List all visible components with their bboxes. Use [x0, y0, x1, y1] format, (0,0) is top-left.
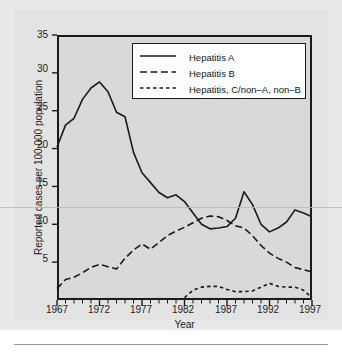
x-tick-label-1982: 1982	[167, 305, 199, 315]
x-tick-label-1967: 1967	[41, 305, 73, 315]
y-tick-label-35: 35	[24, 30, 48, 40]
legend-label-hepatitis-a: Hepatitis A	[189, 51, 234, 65]
x-tick-label-1997: 1997	[294, 305, 326, 315]
x-tick-label-1987: 1987	[210, 305, 242, 315]
legend: Hepatitis A Hepatitis B Hepatitis, C/non…	[132, 43, 306, 99]
x-axis-title: Year	[57, 319, 312, 330]
legend-item-hepatitis-a: Hepatitis A	[141, 50, 303, 66]
legend-label-hepatitis-c: Hepatitis, C/non–A, non–B	[189, 83, 301, 97]
legend-item-hepatitis-c: Hepatitis, C/non–A, non–B	[141, 82, 303, 98]
x-tick-label-1977: 1977	[125, 305, 157, 315]
y-axis-title: Reported cases per 100,000 population	[33, 58, 44, 278]
scanline-artifact	[0, 207, 342, 208]
x-tick-label-1992: 1992	[252, 305, 284, 315]
legend-label-hepatitis-b: Hepatitis B	[189, 67, 235, 81]
bottom-horizontal-rule	[14, 344, 328, 345]
legend-item-hepatitis-b: Hepatitis B	[141, 66, 303, 82]
x-tick-label-1972: 1972	[83, 305, 115, 315]
